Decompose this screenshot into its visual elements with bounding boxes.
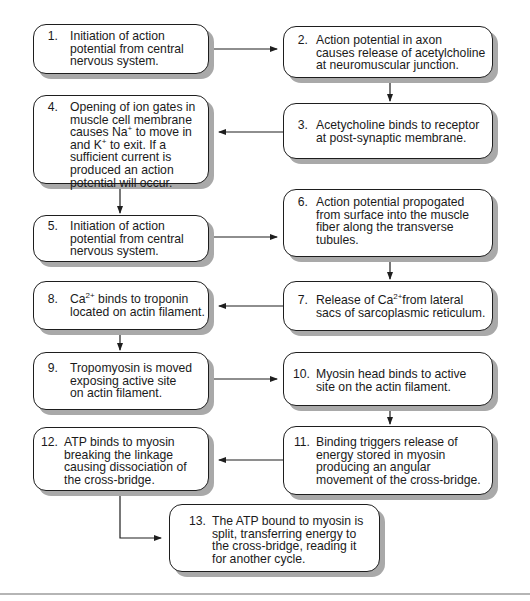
step-9-number: 9. bbox=[44, 362, 58, 375]
step-2-box: 2. Action potential in axon causes relea… bbox=[283, 26, 493, 78]
step-3-text: Acetycholine binds to receptor at post-s… bbox=[316, 119, 479, 144]
step-1-number: 1. bbox=[44, 30, 58, 43]
step-4-text: Opening of ion gates in muscle cell memb… bbox=[70, 101, 195, 189]
step-7-number: 7. bbox=[294, 294, 308, 307]
arrow-12-to-13 bbox=[120, 493, 161, 538]
step-5-box: 5. Initiation of action potential from c… bbox=[33, 215, 209, 262]
flowchart-canvas: 1. Initiation of action potential from c… bbox=[0, 0, 530, 601]
step-7-box: 7. Release of Ca2+from lateral sacs of s… bbox=[283, 281, 493, 331]
step-8-number: 8. bbox=[44, 293, 58, 306]
step-1-box: 1. Initiation of action potential from c… bbox=[33, 24, 209, 74]
step-2-text: Action potential in axon causes release … bbox=[316, 34, 485, 72]
step-10-text: Myosin head binds to active site on the … bbox=[316, 368, 466, 393]
step-2-number: 2. bbox=[294, 34, 308, 47]
step-11-box: 11. Binding triggers release of energy s… bbox=[283, 426, 493, 495]
step-3-box: 3. Acetycholine binds to receptor at pos… bbox=[283, 103, 493, 159]
step-6-text: Action potential propogated from surface… bbox=[316, 196, 469, 246]
step-7-text: Release of Ca2+from lateral sacs of sarc… bbox=[316, 294, 485, 319]
step-11-number: 11. bbox=[290, 436, 310, 449]
step-10-number: 10. bbox=[290, 368, 310, 381]
step-6-box: 6. Action potential propogated from surf… bbox=[283, 189, 493, 257]
step-5-text: Initiation of action potential from cent… bbox=[70, 220, 184, 258]
step-10-box: 10. Myosin head binds to active site on … bbox=[283, 352, 493, 406]
step-8-box: 8. Ca2+ binds to troponin located on act… bbox=[33, 281, 209, 330]
step-9-text: Tropomyosin is moved exposing active sit… bbox=[70, 362, 192, 400]
step-13-box: 13. The ATP bound to myosin is split, tr… bbox=[169, 504, 380, 572]
step-1-text: Initiation of action potential from cent… bbox=[70, 30, 184, 68]
step-3-number: 3. bbox=[294, 119, 308, 132]
step-13-number: 13. bbox=[186, 515, 206, 528]
step-9-box: 9. Tropomyosin is moved exposing active … bbox=[33, 352, 209, 410]
step-5-number: 5. bbox=[44, 220, 58, 233]
step-12-box: 12. ATP binds to myosin breaking the lin… bbox=[33, 427, 209, 491]
step-8-text: Ca2+ binds to troponin located on actin … bbox=[70, 293, 205, 318]
step-13-text: The ATP bound to myosin is split, transf… bbox=[212, 515, 363, 565]
step-12-number: 12. bbox=[38, 436, 58, 449]
step-11-text: Binding triggers release of energy store… bbox=[316, 436, 481, 486]
step-4-number: 4. bbox=[44, 101, 58, 114]
step-6-number: 6. bbox=[294, 196, 308, 209]
step-4-box: 4. Opening of ion gates in muscle cell m… bbox=[33, 95, 209, 184]
step-12-text: ATP binds to myosin breaking the linkage… bbox=[64, 436, 187, 486]
